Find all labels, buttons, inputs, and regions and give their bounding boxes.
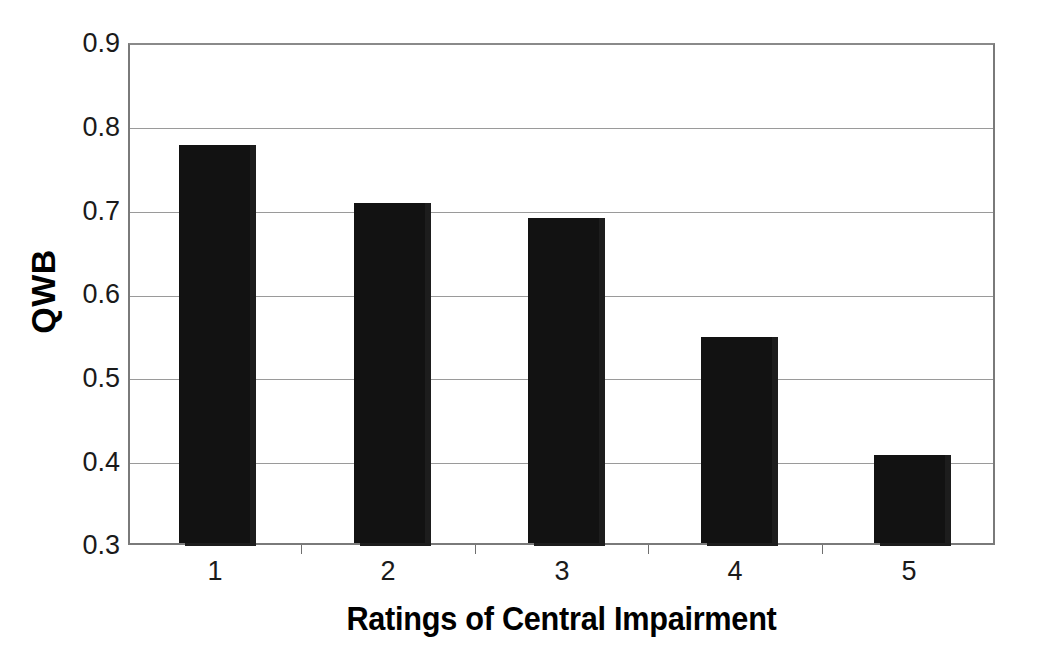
x-axis-title: Ratings of Central Impairment [158,600,964,638]
x-tick-label-4: 4 [695,556,775,586]
bar-slot-3 [477,45,650,543]
bar-slot-4 [650,45,823,543]
x-tick-label-1: 1 [175,556,255,586]
y-tick-label-0.9: 0.9 [60,30,120,57]
bar-5[interactable] [874,455,945,543]
chart-figure: QWB 0.9 0.8 0.7 0.6 0.5 0.4 0.3 [0,0,1040,672]
x-tick-label-5: 5 [869,556,949,586]
bar-1[interactable] [179,145,250,543]
x-tick-mark-1 [301,545,302,554]
x-tick-mark-4 [822,545,823,554]
bar-3[interactable] [528,218,599,543]
bar-2[interactable] [354,203,425,543]
y-tick-label-0.4: 0.4 [60,449,120,476]
y-tick-label-0.7: 0.7 [60,198,120,225]
y-axis-title-text: QWB [24,249,63,334]
bar-slot-2 [303,45,476,543]
bar-4[interactable] [701,337,772,543]
x-tick-label-3: 3 [522,556,602,586]
x-tick-label-2: 2 [348,556,428,586]
y-tick-label-0.5: 0.5 [60,365,120,392]
y-tick-label-0.3: 0.3 [60,532,120,559]
plot-inner [130,45,993,543]
y-tick-label-0.8: 0.8 [60,114,120,141]
bar-slot-1 [130,45,303,543]
plot-area [128,43,995,545]
y-axis-tick-labels: 0.9 0.8 0.7 0.6 0.5 0.4 0.3 [58,0,120,672]
y-tick-label-0.6: 0.6 [60,281,120,308]
x-tick-mark-2 [475,545,476,554]
bar-slot-5 [824,45,997,543]
x-tick-mark-3 [648,545,649,554]
